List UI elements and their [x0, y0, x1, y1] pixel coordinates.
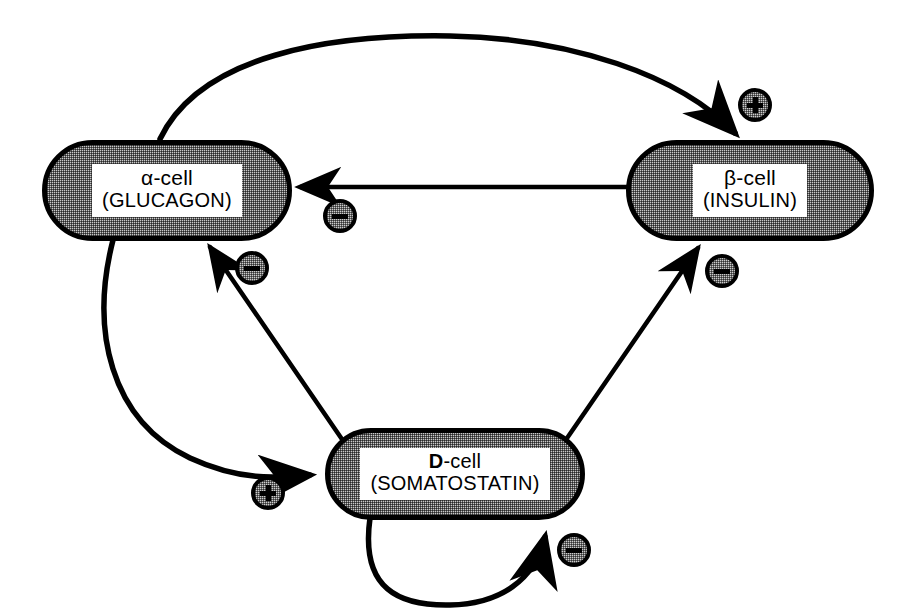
node-alpha-cell[interactable]: α-cell (GLUCAGON)	[42, 140, 292, 241]
islet-cell-interaction-diagram: α-cell (GLUCAGON) β-cell (INSULIN) D-cel…	[0, 0, 900, 613]
plus-sign-badge-alpha-to-beta	[738, 88, 772, 122]
minus-sign-badge-dcell-to-beta	[705, 254, 739, 288]
edge-alpha-to-beta	[160, 36, 735, 139]
node-d-cell[interactable]: D-cell (SOMATOSTATIN)	[325, 428, 585, 520]
edge-dcell-to-alpha	[210, 247, 348, 448]
beta-cell-name: β-cell	[703, 167, 797, 190]
minus-sign-badge-beta-to-alpha	[323, 199, 357, 233]
plus-icon-bar-vertical	[753, 97, 758, 113]
minus-icon-bar	[332, 214, 348, 219]
minus-icon-bar	[244, 266, 260, 271]
d-cell-name-letter: D	[429, 450, 444, 472]
d-cell-name: D-cell	[370, 451, 539, 473]
minus-sign-badge-dcell-self-loop	[557, 533, 591, 567]
minus-icon-bar	[566, 548, 582, 553]
alpha-cell-label-panel: α-cell (GLUCAGON)	[92, 164, 242, 216]
minus-icon-bar	[714, 269, 730, 274]
plus-icon-bar-vertical	[266, 485, 271, 501]
d-cell-label-panel: D-cell (SOMATOSTATIN)	[360, 448, 549, 499]
beta-cell-label-panel: β-cell (INSULIN)	[693, 164, 807, 216]
alpha-cell-name: α-cell	[102, 167, 232, 190]
d-cell-hormone: (SOMATOSTATIN)	[370, 473, 539, 495]
d-cell-name-suffix: -cell	[443, 450, 481, 472]
minus-sign-badge-dcell-to-alpha	[235, 251, 269, 285]
alpha-cell-hormone: (GLUCAGON)	[102, 190, 232, 212]
edge-dcell-to-beta	[563, 248, 698, 444]
node-beta-cell[interactable]: β-cell (INSULIN)	[626, 140, 874, 241]
edge-dcell-self-loop	[368, 518, 545, 605]
plus-sign-badge-alpha-to-dcell	[251, 476, 285, 510]
beta-cell-hormone: (INSULIN)	[703, 190, 797, 212]
edge-alpha-to-dcell	[104, 240, 310, 477]
